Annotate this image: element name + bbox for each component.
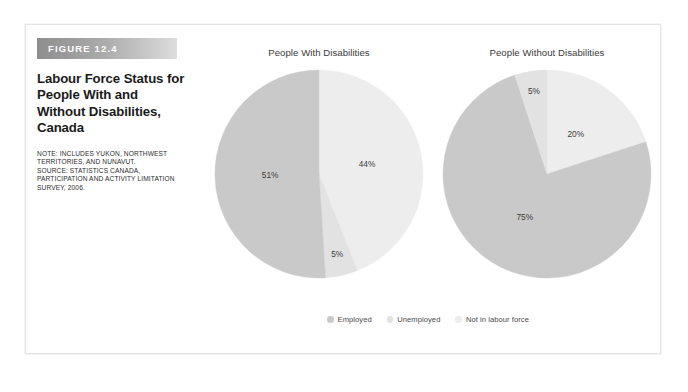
pie-slice-label: 20% [567,129,584,139]
pie-svg-0: 44%5%51% [209,64,429,284]
legend-swatch-icon [327,316,334,323]
legend-label: Unemployed [397,315,440,324]
legend-swatch-icon [455,316,462,323]
pie-slice-label: 5% [331,249,344,259]
legend-item-not-in-labour-force: Not in labour force [455,315,529,324]
note-line: SOURCE: STATISTICS CANADA, [37,167,177,176]
chart-title-people-with-disabilities: People With Disabilities [204,47,434,58]
chart-title-people-without-disabilities: People Without Disabilities [432,47,662,58]
figure-title: Labour Force Status for People With and … [37,71,185,137]
legend-label: Employed [338,315,372,324]
legend-item-unemployed: Unemployed [387,315,441,324]
pie-slice-label: 5% [528,86,541,96]
note-line: SURVEY, 2006. [37,184,177,193]
pie-slice-label: 75% [517,212,534,222]
pie-chart-people-with-disabilities: People With Disabilities 44%5%51% [204,47,434,284]
figure-number-label: FIGURE 12.4 [48,43,118,54]
legend-label: Not in labour force [466,315,529,324]
note-line: NOTE: INCLUDES YUKON, NORTHWEST [37,150,177,159]
note-line: PARTICIPATION AND ACTIVITY LIMITATION [37,175,177,184]
figure-caption-column: FIGURE 12.4 Labour Force Status for Peop… [37,38,189,193]
legend-swatch-icon [387,316,394,323]
figure-root: FIGURE 12.4 Labour Force Status for Peop… [0,0,688,392]
pie-slice-label: 44% [359,159,376,169]
figure-frame: FIGURE 12.4 Labour Force Status for Peop… [25,24,661,354]
figure-number-bar: FIGURE 12.4 [37,38,177,59]
charts-area: People With Disabilities 44%5%51% People… [196,25,660,353]
pie-slice-label: 51% [262,170,279,180]
pie-canvas-wrapper: 20%75%5% [432,64,662,284]
legend-item-employed: Employed [327,315,372,324]
pie-svg-1: 20%75%5% [437,64,657,284]
pie-chart-people-without-disabilities: People Without Disabilities 20%75%5% [432,47,662,284]
chart-legend: Employed Unemployed Not in labour force [196,315,660,324]
pie-canvas-wrapper: 44%5%51% [204,64,434,284]
note-line: TERRITORIES, AND NUNAVUT. [37,158,177,167]
figure-source-note: NOTE: INCLUDES YUKON, NORTHWEST TERRITOR… [37,150,177,193]
